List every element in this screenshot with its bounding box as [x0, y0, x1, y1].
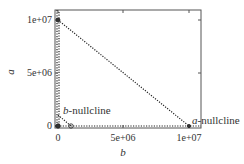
fixed-point — [56, 18, 60, 22]
y-axis-label: a — [4, 69, 16, 75]
x-axis-label: b — [120, 146, 126, 158]
x-tick-label: 0 — [56, 132, 61, 143]
b-nullcline-annotation: b-nullcline — [63, 104, 111, 116]
y-tick-label: 5e+06 — [27, 67, 52, 78]
y-tick-label: 1e+07 — [27, 14, 52, 25]
fixed-point — [56, 124, 60, 128]
fixed-point — [187, 124, 190, 127]
nullcline-chart: 1e+07 5e+06 0 0 5e+06 1e+07 b a b-nullcl… — [0, 0, 244, 164]
a-nullcline-annotation: a-nullcline — [192, 114, 240, 126]
x-tick-label: 5e+06 — [110, 132, 135, 143]
x-tick-label: 1e+07 — [176, 132, 201, 143]
y-tick-label: 0 — [47, 120, 52, 131]
